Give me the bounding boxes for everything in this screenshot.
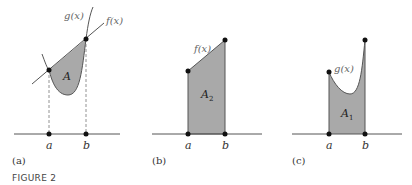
axis-label-b: b xyxy=(83,139,90,152)
axis-label-a: a xyxy=(326,139,333,152)
region-label: A xyxy=(62,70,71,83)
point-dot xyxy=(363,38,368,43)
axis-dot-b xyxy=(223,132,228,137)
region-a xyxy=(49,39,86,95)
intersection-dot xyxy=(47,68,52,73)
point-dot xyxy=(223,38,228,43)
label-g: g(x) xyxy=(64,10,84,21)
point-dot xyxy=(186,69,191,74)
caption-b: (b) xyxy=(152,155,166,166)
axis-dot-a xyxy=(47,132,52,137)
label-g: g(x) xyxy=(334,63,354,74)
caption-a: (a) xyxy=(12,155,26,166)
panel-b: f(x) A2 a b (b) xyxy=(152,38,262,167)
caption-c: (c) xyxy=(292,155,306,166)
region-a2 xyxy=(188,40,225,134)
intersection-dot xyxy=(84,37,89,42)
axis-dot-a xyxy=(327,132,332,137)
axis-dot-b xyxy=(363,132,368,137)
figure-2: g(x) f(x) A a b (a) f(x) A2 a b (b) g(x)… xyxy=(0,0,412,185)
label-f: f(x) xyxy=(193,43,211,54)
axis-label-a: a xyxy=(185,139,192,152)
axis-dot-b xyxy=(84,132,89,137)
axis-dot-a xyxy=(186,132,191,137)
point-dot xyxy=(327,70,332,75)
panel-a: g(x) f(x) A a b (a) xyxy=(12,7,123,166)
axis-label-a: a xyxy=(46,139,53,152)
axis-label-b: b xyxy=(362,139,369,152)
figure-label: FIGURE 2 xyxy=(12,173,56,183)
axis-label-b: b xyxy=(222,139,229,152)
label-f: f(x) xyxy=(105,15,123,26)
panel-c: g(x) A1 a b (c) xyxy=(292,38,402,167)
